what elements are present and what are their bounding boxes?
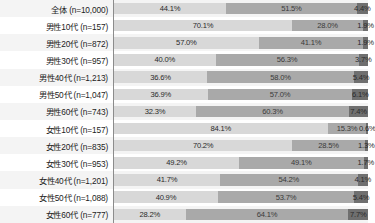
segment-value-label: 58.0%: [270, 73, 291, 82]
segment-value-label: 40.0%: [155, 55, 176, 64]
segment-value-label: 36.9%: [151, 90, 172, 99]
row-category-label: 女性10代 (n=157): [0, 123, 113, 135]
segment-value-label: 1.3%: [358, 141, 375, 150]
chart-row: 男性50代 (n=1,047)36.9%57.0%6.1%: [0, 86, 368, 103]
bar-segment-1: 32.3%: [114, 106, 196, 117]
bar-segment-2: 41.1%: [259, 37, 363, 48]
stacked-bar: 57.0%41.1%1.9%: [114, 37, 368, 48]
segment-value-label: 70.1%: [193, 21, 214, 30]
stacked-bar: 28.2%64.1%7.7%: [114, 209, 368, 220]
bar-segment-3: 7.7%: [348, 209, 368, 220]
chart-row: 女性30代 (n=953)49.2%49.1%1.7%: [0, 154, 368, 171]
row-category-label: 男性30代 (n=957): [0, 54, 113, 66]
chart-row: 男性30代 (n=957)40.0%56.3%3.7%: [0, 51, 368, 68]
row-category-label: 女性40代 (n=1,201): [0, 174, 113, 186]
segment-value-label: 28.2%: [140, 210, 161, 219]
bar-segment-2: 54.2%: [220, 174, 358, 185]
bar-segment-1: 57.0%: [114, 37, 259, 48]
stacked-bar: 70.1%28.0%1.9%: [114, 20, 368, 31]
segment-value-label: 4.1%: [355, 175, 372, 184]
chart-row: 男性40代 (n=1,213)36.6%58.0%5.4%: [0, 69, 368, 86]
bar-segment-1: 44.1%: [114, 3, 226, 14]
row-category-label: 全体 (n=10,000): [0, 3, 113, 15]
chart-row: 男性10代 (n=157)70.1%28.0%1.9%: [0, 17, 368, 34]
bar-segment-3: 6.1%: [352, 89, 367, 100]
segment-value-label: 70.2%: [193, 141, 214, 150]
segment-value-label: 49.2%: [166, 158, 187, 167]
segment-value-label: 54.2%: [278, 175, 299, 184]
segment-value-label: 56.3%: [277, 55, 298, 64]
chart-row: 男性60代 (n=743)32.3%60.3%7.4%: [0, 103, 368, 120]
row-category-label: 男性20代 (n=872): [0, 37, 113, 49]
segment-value-label: 6.1%: [352, 90, 369, 99]
segment-value-label: 84.1%: [211, 124, 232, 133]
segment-value-label: 41.7%: [157, 175, 178, 184]
stacked-bar: 32.3%60.3%7.4%: [114, 106, 368, 117]
bar-segment-1: 84.1%: [114, 123, 328, 134]
segment-value-label: 40.9%: [156, 193, 177, 202]
bar-segment-3: 1.9%: [363, 37, 368, 48]
chart-row: 女性40代 (n=1,201)41.7%54.2%4.1%: [0, 171, 368, 188]
row-category-label: 女性20代 (n=835): [0, 140, 113, 152]
segment-value-label: 1.9%: [357, 21, 374, 30]
stacked-bar: 40.9%53.7%5.4%: [114, 191, 368, 202]
segment-value-label: 28.0%: [317, 21, 338, 30]
row-category-label: 男性60代 (n=743): [0, 105, 113, 117]
stacked-bar: 36.9%57.0%6.1%: [114, 89, 368, 100]
bar-segment-2: 64.1%: [186, 209, 349, 220]
segment-value-label: 53.7%: [276, 193, 297, 202]
bar-segment-2: 53.7%: [218, 191, 354, 202]
bar-segment-3: 1.9%: [363, 20, 368, 31]
segment-value-label: 51.5%: [281, 4, 302, 13]
stacked-bar: 41.7%54.2%4.1%: [114, 174, 368, 185]
stacked-bar: 40.0%56.3%3.7%: [114, 54, 368, 65]
segment-value-label: 57.0%: [176, 38, 197, 47]
bar-segment-3: 3.7%: [359, 54, 368, 65]
segment-value-label: 49.1%: [291, 158, 312, 167]
bar-segment-1: 36.6%: [114, 71, 207, 82]
segment-value-label: 4.4%: [354, 4, 371, 13]
chart-row: 女性50代 (n=1,088)40.9%53.7%5.4%: [0, 189, 368, 206]
bar-segment-2: 28.0%: [292, 20, 363, 31]
segment-value-label: 15.3%: [337, 124, 358, 133]
segment-value-label: 0.6%: [359, 124, 375, 133]
bar-segment-1: 36.9%: [114, 89, 208, 100]
stacked-bar: 44.1%51.5%4.4%: [114, 3, 368, 14]
chart-row: 男性20代 (n=872)57.0%41.1%1.9%: [0, 34, 368, 51]
bar-segment-3: 4.4%: [357, 3, 368, 14]
stacked-bar: 70.2%28.5%1.3%: [114, 140, 368, 151]
stacked-bar: 84.1%15.3%0.6%: [114, 123, 368, 134]
bar-segment-3: 0.6%: [366, 123, 368, 134]
segment-value-label: 7.7%: [350, 210, 367, 219]
bar-segment-2: 51.5%: [226, 3, 357, 14]
segment-value-label: 1.9%: [357, 38, 374, 47]
segment-value-label: 1.7%: [358, 158, 375, 167]
bar-segment-2: 49.1%: [239, 157, 364, 168]
bar-segment-3: 7.4%: [349, 106, 368, 117]
bar-segment-2: 28.5%: [292, 140, 364, 151]
bar-segment-2: 58.0%: [207, 71, 354, 82]
segment-value-label: 28.5%: [318, 141, 339, 150]
row-category-label: 男性50代 (n=1,047): [0, 88, 113, 100]
bar-segment-1: 49.2%: [114, 157, 239, 168]
segment-value-label: 5.4%: [353, 73, 370, 82]
bar-segment-3: 1.3%: [365, 140, 368, 151]
stacked-bar: 36.6%58.0%5.4%: [114, 71, 368, 82]
bar-segment-1: 40.9%: [114, 191, 218, 202]
row-category-label: 女性30代 (n=953): [0, 157, 113, 169]
segment-value-label: 64.1%: [257, 210, 278, 219]
bar-segment-3: 1.7%: [364, 157, 368, 168]
segment-value-label: 36.6%: [150, 73, 171, 82]
segment-value-label: 5.4%: [353, 193, 370, 202]
segment-value-label: 32.3%: [145, 107, 166, 116]
stacked-bar: 49.2%49.1%1.7%: [114, 157, 368, 168]
bar-segment-3: 5.4%: [354, 191, 368, 202]
bar-segment-1: 70.2%: [114, 140, 292, 151]
row-category-label: 女性50代 (n=1,088): [0, 191, 113, 203]
bar-segment-1: 40.0%: [114, 54, 216, 65]
bar-segment-3: 4.1%: [358, 174, 368, 185]
segment-value-label: 60.3%: [262, 107, 283, 116]
segment-value-label: 7.4%: [350, 107, 367, 116]
segment-value-label: 41.1%: [301, 38, 322, 47]
